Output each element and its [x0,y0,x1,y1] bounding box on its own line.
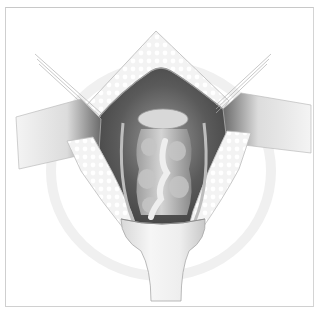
tissue-disc [138,109,188,129]
bottom-retractor-handle [121,219,205,301]
illustration-frame [5,7,314,307]
surgical-illustration [6,8,314,307]
